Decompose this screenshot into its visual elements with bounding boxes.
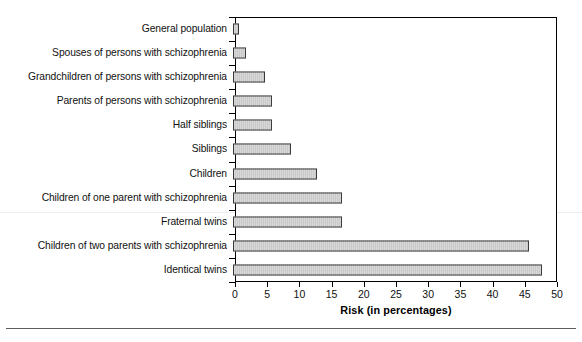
- bar-13: [233, 168, 317, 179]
- bar-6: [233, 120, 272, 131]
- y-axis-tick: [229, 282, 235, 283]
- y-axis-tick: [229, 258, 235, 259]
- bar-6: [233, 96, 272, 107]
- bar-17: [233, 216, 342, 227]
- x-axis-tick: [299, 282, 300, 287]
- x-axis-tick-label: 30: [422, 288, 434, 300]
- x-axis-tick: [235, 282, 236, 287]
- bar-2: [233, 48, 246, 59]
- bar-cell: [233, 113, 557, 137]
- category-label: Siblings: [0, 143, 233, 155]
- x-axis-tick-label: 25: [390, 288, 402, 300]
- bar-cell: [233, 65, 557, 89]
- bar-cell: [233, 186, 557, 210]
- x-axis-tick-label: 5: [264, 288, 270, 300]
- chart-row: Parents of persons with schizophrenia: [0, 89, 557, 113]
- x-axis-tick-label: 40: [487, 288, 499, 300]
- bar-5: [233, 72, 265, 83]
- bar-cell: [233, 89, 557, 113]
- chart-row: Children: [0, 162, 557, 186]
- x-axis-tick: [557, 282, 558, 287]
- bar-cell: [233, 17, 557, 41]
- category-label: Children: [0, 168, 233, 180]
- chart-row: Identical twins: [0, 258, 557, 282]
- bar-cell: [233, 210, 557, 234]
- y-axis-tick: [229, 17, 235, 18]
- chart-rows: General populationSpouses of persons wit…: [0, 17, 557, 282]
- x-axis-tick: [460, 282, 461, 287]
- x-axis-tick: [364, 282, 365, 287]
- y-axis-tick: [229, 89, 235, 90]
- category-label: Half siblings: [0, 119, 233, 131]
- bar-9: [233, 144, 291, 155]
- bar-cell: [233, 162, 557, 186]
- chart-row: Siblings: [0, 137, 557, 161]
- chart-row: General population: [0, 17, 557, 41]
- y-axis-tick: [229, 137, 235, 138]
- bar-cell: [233, 234, 557, 258]
- category-label: Children of two parents with schizophren…: [0, 240, 233, 252]
- chart-row: Spouses of persons with schizophrenia: [0, 41, 557, 65]
- x-axis-tick: [493, 282, 494, 287]
- y-axis-tick: [229, 65, 235, 66]
- x-axis-tick: [396, 282, 397, 287]
- category-label: Grandchildren of persons with schizophre…: [0, 71, 233, 83]
- chart-row: Half siblings: [0, 113, 557, 137]
- x-axis-tick: [428, 282, 429, 287]
- y-axis-tick: [229, 234, 235, 235]
- bar-cell: [233, 41, 557, 65]
- chart-row: Grandchildren of persons with schizophre…: [0, 65, 557, 89]
- x-axis-tick-label: 0: [232, 288, 238, 300]
- bar-cell: [233, 258, 557, 282]
- x-axis-tick-label: 50: [551, 288, 563, 300]
- category-label: Parents of persons with schizophrenia: [0, 95, 233, 107]
- bar-cell: [233, 137, 557, 161]
- category-label: Identical twins: [0, 264, 233, 276]
- x-axis-label: Risk (in percentages): [235, 304, 557, 316]
- category-label: Spouses of persons with schizophrenia: [0, 47, 233, 59]
- x-axis-tick-label: 10: [294, 288, 306, 300]
- category-label: Fraternal twins: [0, 216, 233, 228]
- y-axis-tick: [229, 113, 235, 114]
- bottom-horizontal-rule: [6, 328, 576, 329]
- y-axis-tick: [229, 162, 235, 163]
- bar-1: [233, 24, 239, 35]
- x-axis-tick-label: 15: [326, 288, 338, 300]
- bar-48: [233, 264, 542, 275]
- category-label: Children of one parent with schizophreni…: [0, 192, 233, 204]
- bar-chart-figure: General populationSpouses of persons wit…: [0, 0, 582, 342]
- x-axis-tick-label: 20: [358, 288, 370, 300]
- x-axis: 05101520253035404550: [235, 282, 557, 322]
- x-axis-tick: [332, 282, 333, 287]
- y-axis-tick: [229, 210, 235, 211]
- category-label: General population: [0, 23, 233, 35]
- y-axis-tick: [229, 41, 235, 42]
- chart-row: Fraternal twins: [0, 210, 557, 234]
- bar-17: [233, 192, 342, 203]
- x-axis-tick-label: 45: [519, 288, 531, 300]
- chart-row: Children of one parent with schizophreni…: [0, 186, 557, 210]
- x-axis-tick-label: 35: [455, 288, 467, 300]
- bar-46: [233, 240, 529, 251]
- x-axis-tick: [267, 282, 268, 287]
- y-axis-tick: [229, 186, 235, 187]
- x-axis-tick: [525, 282, 526, 287]
- chart-row: Children of two parents with schizophren…: [0, 234, 557, 258]
